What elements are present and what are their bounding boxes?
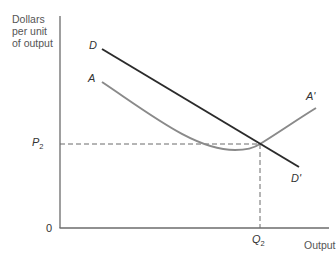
y-axis-label-line1: Dollars <box>12 13 53 25</box>
y-axis-label: Dollars per unit of output <box>12 13 53 49</box>
x-axis-label: Output <box>304 239 336 251</box>
q-subscript: 2 <box>261 239 265 248</box>
dd-line <box>102 49 299 167</box>
d-start-label: D <box>89 39 97 51</box>
a-end-label: A' <box>306 90 315 102</box>
d-end-label: D' <box>291 172 301 184</box>
q-main: Q <box>252 233 261 245</box>
q2-tick-label: Q2 <box>252 233 265 245</box>
y-axis-label-line3: of output <box>12 37 53 49</box>
aa-curve <box>102 82 316 150</box>
p-subscript: 2 <box>39 142 43 151</box>
y-axis-label-line2: per unit <box>12 25 53 37</box>
origin-label: 0 <box>46 222 52 234</box>
a-start-label: A <box>88 72 95 84</box>
p2-tick-label: P2 <box>32 136 44 148</box>
